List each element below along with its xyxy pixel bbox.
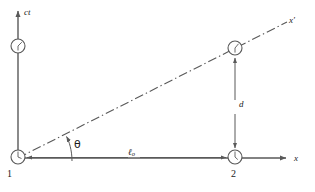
distance-d-label: d bbox=[239, 100, 244, 109]
theta-label: θ bbox=[74, 139, 81, 150]
x-axis-label: x bbox=[294, 154, 298, 163]
clock-on-x-prime bbox=[228, 41, 242, 55]
event-1-label: 1 bbox=[7, 169, 12, 179]
x-prime-axis-line bbox=[18, 22, 287, 158]
proper-length-subscript: o bbox=[132, 150, 135, 157]
event-2-label: 2 bbox=[231, 169, 236, 179]
ct-axis-label: ct bbox=[24, 8, 31, 17]
diagram-canvas bbox=[0, 0, 315, 192]
x-prime-axis-label: x′ bbox=[289, 16, 295, 25]
clock-event-2 bbox=[228, 150, 242, 164]
clock-on-ct-axis bbox=[11, 39, 25, 53]
spacetime-diagram: ct x′ x 1 2 d ℓo θ bbox=[0, 0, 315, 192]
proper-length-label: ℓo bbox=[128, 148, 135, 158]
clock-event-1 bbox=[11, 150, 25, 164]
